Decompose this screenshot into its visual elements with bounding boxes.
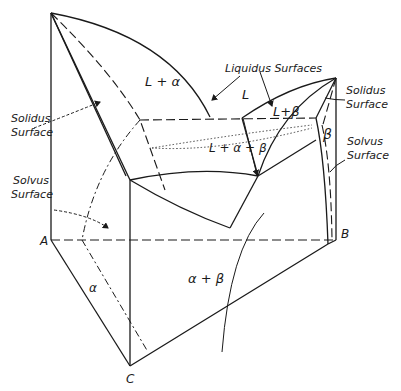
solidus-right-leader	[325, 98, 345, 100]
liquidus-callout: Liquidus Surfaces	[225, 62, 322, 75]
solvus-left-callout-2: Surface	[11, 188, 53, 201]
region-beta: β	[322, 126, 332, 142]
region-alpha: α	[89, 281, 97, 295]
vertex-b: B	[341, 227, 349, 241]
vertex-a: A	[39, 234, 48, 248]
liquidus-curves	[51, 13, 336, 190]
callout-arrows	[34, 72, 345, 228]
solidus-right-callout-1: Solidus	[346, 84, 386, 97]
solvus-front-a	[130, 180, 230, 228]
solvus-mid	[230, 176, 258, 228]
region-l-alpha-beta: L + α + β	[209, 141, 267, 155]
liquidus-arrow-right	[260, 72, 272, 106]
solvus-left-callout-1: Solvus	[13, 174, 49, 187]
solvus-right-callout-1: Solvus	[347, 135, 383, 148]
vertex-c: C	[126, 372, 135, 386]
region-l: L	[242, 87, 249, 102]
eutectic-right-edge	[258, 140, 316, 176]
solvus-left-arrow	[54, 210, 108, 228]
edge-a-c	[51, 240, 130, 366]
edge-b-corner	[328, 240, 336, 244]
edge-c-b	[130, 244, 328, 366]
solidus-left-callout-2: Surface	[11, 126, 53, 139]
phase-diagram: L + α L L+β L + α + β β α α + β Liquidus…	[0, 0, 401, 391]
solidus-right-callout-2: Surface	[346, 98, 388, 111]
region-l-beta: L+β	[273, 104, 299, 119]
liquidus-ac-line2	[51, 13, 126, 176]
liquidus-arrow-left	[212, 76, 240, 100]
solvus-right-callout-2: Surface	[347, 149, 389, 162]
solidus-left-callout-1: Solidus	[11, 112, 51, 125]
solvus-right-leader	[330, 160, 345, 172]
alpha-boundary-base	[82, 240, 148, 352]
liquidus-a-hidden	[51, 13, 165, 190]
eutectic-front-curve	[130, 171, 258, 180]
region-alpha-beta: α + β	[188, 271, 224, 286]
region-l-alpha: L + α	[145, 74, 180, 89]
solvus-alpha-beta-curve	[222, 213, 264, 352]
